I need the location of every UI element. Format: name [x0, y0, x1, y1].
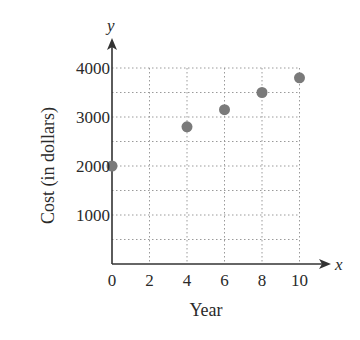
x-tick-10: 10: [291, 272, 308, 289]
y-axis-letter: y: [107, 17, 115, 34]
data-points: [107, 72, 306, 171]
y-tick-1000: 1000: [76, 207, 110, 224]
data-point: [294, 72, 305, 83]
data-point: [219, 104, 230, 115]
grid-horizontal: [112, 68, 300, 240]
x-tick-2: 2: [145, 272, 154, 289]
x-tick-8: 8: [258, 272, 267, 289]
x-tick-0: 0: [108, 272, 117, 289]
data-point: [257, 87, 268, 98]
y-tick-2000: 2000: [76, 158, 110, 175]
x-tick-4: 4: [183, 272, 192, 289]
x-tick-6: 6: [220, 272, 229, 289]
y-tick-4000: 4000: [76, 60, 110, 77]
y-axis-title: Cost (in dollars): [38, 66, 59, 266]
x-axis-title: Year: [0, 300, 360, 321]
axes: [107, 38, 331, 269]
x-axis-letter: x: [335, 256, 343, 273]
data-point: [182, 121, 193, 132]
y-tick-3000: 3000: [76, 109, 110, 126]
